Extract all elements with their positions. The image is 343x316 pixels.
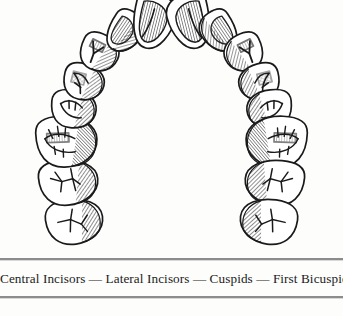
caption-rule-bottom [0,296,343,298]
caption-rule-top [0,258,343,260]
figure-page: Central Incisors — Lateral Incisors — Cu… [0,0,343,316]
caption-text: Central Incisors — Lateral Incisors — Cu… [0,264,343,294]
dental-arch-drawing [0,0,343,258]
caption-block: Central Incisors — Lateral Incisors — Cu… [0,256,343,316]
dental-arch-figure [0,0,343,258]
